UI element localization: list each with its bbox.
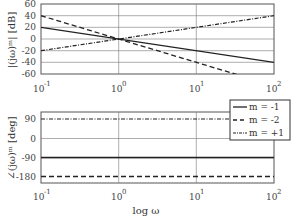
xtick-bottom-2-exp: 1 xyxy=(200,188,204,196)
xtick-top-3-exp: 2 xyxy=(277,80,281,88)
phase-ylabel: ∠(jω)ᵐ [deg] xyxy=(6,116,17,179)
ytick-top-2: 20 xyxy=(25,22,37,32)
ytick-top-5: -40 xyxy=(22,57,37,67)
legend-m-minus1: m = -1 xyxy=(249,102,280,112)
xtick-bottom-0-exp: -1 xyxy=(44,188,51,196)
xtick-top-2-exp: 1 xyxy=(200,80,204,88)
magnitude-ylabel: |(jω)ᵐ| [dB] xyxy=(6,12,18,69)
magnitude-plot: 60 40 20 0 -20 -40 -60 10 -1 10 0 10 1 1… xyxy=(6,0,281,94)
xtick-bottom-1-exp: 0 xyxy=(122,188,126,196)
ytick-top-0: 60 xyxy=(25,0,37,9)
ytick-bottom-3: -180 xyxy=(16,172,36,182)
ytick-bottom-2: -90 xyxy=(22,153,37,163)
xtick-top-1-exp: 0 xyxy=(122,80,126,88)
ytick-top-6: -60 xyxy=(22,69,37,79)
xtick-top-1-base: 10 xyxy=(111,84,123,94)
xtick-bottom-2-base: 10 xyxy=(189,192,201,202)
xtick-top-0-base: 10 xyxy=(33,84,45,94)
xtick-top-2-base: 10 xyxy=(189,84,201,94)
xtick-bottom-3-exp: 2 xyxy=(277,188,281,196)
bode-chart: 60 40 20 0 -20 -40 -60 10 -1 10 0 10 1 1… xyxy=(0,0,291,219)
ytick-top-4: -20 xyxy=(22,46,37,56)
xtick-top-0-exp: -1 xyxy=(44,80,51,88)
ytick-top-3: 0 xyxy=(30,34,36,44)
xtick-top-3-base: 10 xyxy=(266,84,278,94)
xlabel: log ω xyxy=(133,205,160,216)
legend: m = -1 m = -2 m = +1 xyxy=(230,100,290,140)
ytick-bottom-0: 90 xyxy=(25,114,37,124)
legend-m-plus1: m = +1 xyxy=(249,128,284,138)
ytick-top-1: 40 xyxy=(25,11,37,21)
xtick-bottom-3-base: 10 xyxy=(266,192,278,202)
xtick-bottom-0-base: 10 xyxy=(33,192,45,202)
legend-m-minus2: m = -2 xyxy=(249,115,280,125)
ytick-bottom-1: 0 xyxy=(30,134,36,144)
xtick-bottom-1-base: 10 xyxy=(111,192,123,202)
